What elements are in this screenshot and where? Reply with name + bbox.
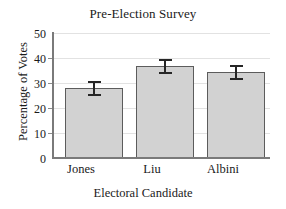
error-bar-liu [136,59,194,74]
error-bar-jones [65,81,123,96]
bar-jones[interactable] [65,88,123,158]
x-axis-line [52,157,270,159]
bar-albini[interactable] [207,72,265,158]
x-tick-label-albini: Albini [178,162,268,177]
error-bar-cap-top [230,65,243,67]
error-bar-cap-bottom [159,72,172,74]
error-bar-cap-top [159,59,172,61]
chart-figure: Pre-Election Survey 50 40 30 20 10 0 [0,0,286,209]
x-axis-title: Electoral Candidate [0,186,286,201]
error-bar-cap-bottom [88,94,101,96]
y-axis-title: Percentage of Votes [16,22,31,162]
bar-liu[interactable] [136,66,194,158]
gridline-50 [53,33,270,34]
error-bar-cap-top [88,81,101,83]
y-axis-line [52,32,54,159]
plot-area [53,33,270,158]
error-bar-cap-bottom [230,78,243,80]
error-bar-albini [207,65,265,80]
